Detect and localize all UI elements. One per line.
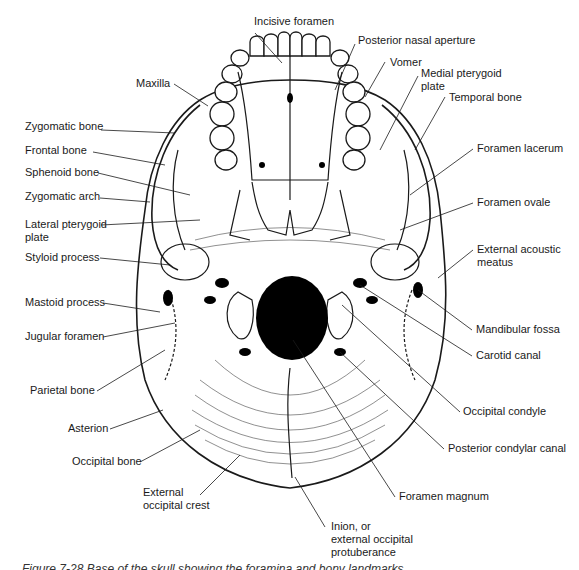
label-posterior-nasal-aperture: Posterior nasal aperture xyxy=(358,34,475,47)
label-external-acoustic-meatus: External acoustic meatus xyxy=(477,243,561,269)
occipital-condyle-right xyxy=(327,292,353,339)
label-incisive-foramen: Incisive foramen xyxy=(254,15,334,28)
foramen-magnum-shape xyxy=(256,276,328,360)
label-zygomatic-bone: Zygomatic bone xyxy=(25,120,103,133)
label-mastoid-process: Mastoid process xyxy=(25,296,105,309)
label-jugular-foramen: Jugular foramen xyxy=(25,330,105,343)
label-carotid-canal: Carotid canal xyxy=(476,349,541,362)
label-occipital-condyle: Occipital condyle xyxy=(463,405,546,418)
figure-caption: Figure 7-28 Base of the skull showing th… xyxy=(22,562,407,570)
label-frontal-bone: Frontal bone xyxy=(25,144,87,157)
label-parietal-bone: Parietal bone xyxy=(30,384,95,397)
label-styloid-process: Styloid process xyxy=(25,251,100,264)
label-foramen-lacerum: Foramen lacerum xyxy=(477,142,563,155)
label-temporal-bone: Temporal bone xyxy=(449,91,522,104)
label-external-occipital-crest: External occipital crest xyxy=(143,486,210,512)
occipital-condyle-left xyxy=(227,292,253,339)
label-mandibular-fossa: Mandibular fossa xyxy=(476,323,560,336)
label-occipital-bone: Occipital bone xyxy=(72,455,142,468)
label-maxilla: Maxilla xyxy=(136,77,170,90)
label-inion: Inion, or external occipital protuberanc… xyxy=(331,520,413,559)
label-sphenoid-bone: Sphenoid bone xyxy=(25,166,99,179)
zygomatic-arch-right xyxy=(382,105,430,270)
skull-base-diagram: Incisive foramen Posterior nasal apertur… xyxy=(0,0,579,570)
label-foramen-magnum: Foramen magnum xyxy=(399,490,489,503)
label-posterior-condylar-canal: Posterior condylar canal xyxy=(448,442,566,455)
label-vomer: Vomer xyxy=(390,56,422,69)
label-zygomatic-arch: Zygomatic arch xyxy=(25,190,100,203)
label-lateral-pterygoid-plate: Lateral pterygoid plate xyxy=(25,218,107,244)
label-medial-pterygoid-plate: Medial pterygoid plate xyxy=(421,67,502,93)
label-foramen-ovale: Foramen ovale xyxy=(477,196,550,209)
label-asterion: Asterion xyxy=(68,422,108,435)
